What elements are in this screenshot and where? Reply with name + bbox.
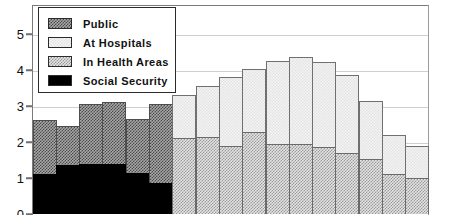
- bar-2: [56, 126, 80, 214]
- bar-segment-in-health-areas: [312, 147, 336, 214]
- bar-segment-social-security: [33, 174, 57, 214]
- bar-segment-in-health-areas: [172, 138, 196, 214]
- bar-1: [33, 120, 57, 214]
- legend-label-public: Public: [83, 18, 118, 30]
- bar-8: [196, 86, 220, 214]
- bar-segment-public: [33, 120, 57, 174]
- bar-12: [289, 57, 313, 214]
- bar-segment-at-hospitals: [242, 69, 266, 132]
- bar-segment-social-security: [126, 173, 150, 214]
- legend-item-in-health-areas: In Health Areas: [48, 52, 175, 71]
- bar-segment-at-hospitals: [219, 77, 243, 145]
- legend-label-in-health-areas: In Health Areas: [83, 56, 169, 68]
- bar-segment-in-health-areas: [219, 146, 243, 214]
- social-security-swatch-icon: [48, 75, 72, 86]
- bar-segment-at-hospitals: [359, 101, 383, 159]
- bar-3: [79, 104, 103, 214]
- bar-segment-at-hospitals: [289, 57, 313, 143]
- bar-6: [149, 104, 173, 214]
- bar-segment-in-health-areas: [266, 144, 290, 214]
- legend-item-at-hospitals: At Hospitals: [48, 33, 175, 52]
- bar-13: [312, 62, 336, 214]
- bar-segment-public: [126, 119, 150, 173]
- chart-legend: Public At Hospitals In Health Areas Soci…: [38, 7, 176, 93]
- bar-segment-at-hospitals: [405, 146, 429, 178]
- legend-item-social-security: Social Security: [48, 71, 175, 90]
- bar-segment-social-security: [102, 164, 126, 214]
- bar-segment-in-health-areas: [242, 132, 266, 214]
- bar-segment-in-health-areas: [359, 159, 383, 214]
- bar-segment-in-health-areas: [289, 144, 313, 214]
- legend-item-public: Public: [48, 14, 175, 33]
- bar-15: [359, 101, 383, 214]
- bar-segment-at-hospitals: [312, 62, 336, 147]
- bar-segment-at-hospitals: [172, 95, 196, 138]
- bar-segment-public: [149, 104, 173, 183]
- bar-14: [335, 75, 359, 214]
- bar-segment-social-security: [79, 164, 103, 214]
- bar-11: [266, 61, 290, 214]
- bar-4: [102, 102, 126, 214]
- public-swatch-icon: [48, 18, 72, 29]
- bar-segment-at-hospitals: [266, 61, 290, 144]
- bar-segment-public: [56, 126, 80, 166]
- bar-segment-in-health-areas: [382, 174, 406, 214]
- health-areas-swatch-icon: [48, 56, 72, 67]
- bar-10: [242, 69, 266, 214]
- bar-segment-social-security: [149, 183, 173, 214]
- bar-segment-social-security: [56, 165, 80, 214]
- bar-7: [172, 95, 196, 214]
- bar-16: [382, 135, 406, 214]
- legend-label-at-hospitals: At Hospitals: [83, 37, 152, 49]
- legend-label-social-security: Social Security: [83, 75, 168, 87]
- bar-segment-in-health-areas: [196, 137, 220, 214]
- bar-17: [405, 146, 429, 214]
- bar-segment-at-hospitals: [196, 86, 220, 136]
- bar-segment-at-hospitals: [335, 75, 359, 152]
- hospitals-swatch-icon: [48, 37, 72, 48]
- bar-segment-in-health-areas: [335, 153, 359, 214]
- bar-5: [126, 119, 150, 214]
- stacked-bar-chart: 5 4 3 2 1 0 Public At Hospitals In Heal: [0, 0, 451, 215]
- bar-segment-at-hospitals: [382, 135, 406, 175]
- bar-segment-in-health-areas: [405, 178, 429, 214]
- bar-9: [219, 77, 243, 214]
- bar-segment-public: [79, 104, 103, 163]
- bar-segment-public: [102, 102, 126, 163]
